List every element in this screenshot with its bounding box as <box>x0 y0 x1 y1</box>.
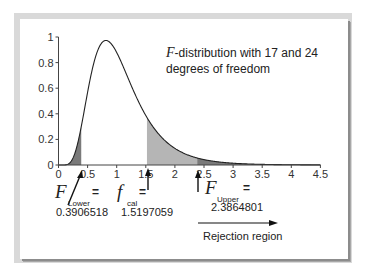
f-cal-equals: = <box>139 185 146 199</box>
f-cal-symbol: f <box>117 181 125 202</box>
f-lower-value: 0.3906518 <box>56 206 108 218</box>
f-lower-equals: = <box>92 185 99 199</box>
f-distribution-chart: 00.511.522.533.544.500.20.40.60.81 F-dis… <box>0 0 365 271</box>
f-upper-value: 2.3864801 <box>211 201 263 213</box>
f-upper-annotation: F Upper = 2.3864801 <box>195 170 263 213</box>
f-cal-value: 1.5197059 <box>121 206 173 218</box>
x-tick-label: 4 <box>288 168 294 180</box>
y-tick-label: 0.6 <box>38 82 53 94</box>
f-lower-annotation: F Lower = 0.3906518 <box>54 170 108 218</box>
x-tick-label: 2 <box>172 168 178 180</box>
f-lower-symbol: F <box>54 181 67 202</box>
y-tick-label: 0.2 <box>38 133 53 145</box>
x-tick-label: 3 <box>230 168 236 180</box>
x-tick-label: 4.5 <box>313 168 328 180</box>
chart-title-line-2: degrees of freedom <box>166 62 270 76</box>
rejection-region-annotation: Rejection region <box>198 220 283 242</box>
f-upper-equals: = <box>243 181 250 195</box>
x-tick-label: 1 <box>114 168 120 180</box>
x-tick-label: 0 <box>55 168 61 180</box>
rejection-region-label: Rejection region <box>203 230 283 242</box>
f-upper-symbol: F <box>204 177 217 198</box>
shaded-regions <box>59 117 321 165</box>
x-tick-label: 3.5 <box>255 168 270 180</box>
shade-lower-tail <box>59 127 82 165</box>
chart-title-line-1: F-distribution with 17 and 24 <box>165 45 318 60</box>
y-tick-label: 0.8 <box>38 57 53 69</box>
arrow-right-icon <box>269 220 278 226</box>
shade-p-value-region <box>147 117 320 165</box>
y-tick-label: 0 <box>47 159 53 171</box>
y-tick-label: 0.4 <box>38 108 53 120</box>
y-tick-label: 1 <box>47 31 53 43</box>
